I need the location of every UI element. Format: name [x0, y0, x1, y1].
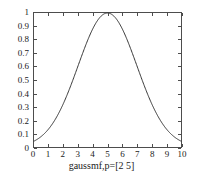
y-tick-label: 0.4: [0, 89, 29, 98]
y-tick-left: [34, 53, 37, 54]
y-tick-right: [178, 66, 181, 67]
y-tick-right: [178, 107, 181, 108]
x-tick-bottom: [33, 144, 34, 147]
y-tick-right: [178, 121, 181, 122]
y-tick-right: [178, 94, 181, 95]
x-tick-label: 10: [178, 150, 187, 159]
y-tick-label: 0.8: [0, 35, 29, 44]
y-tick-left: [34, 121, 37, 122]
plot-axes-box: [33, 12, 182, 148]
x-tick-label: 6: [120, 150, 125, 159]
y-tick-right: [178, 134, 181, 135]
x-tick-top: [93, 13, 94, 16]
x-tick-label: 5: [105, 150, 110, 159]
x-tick-label: 3: [75, 150, 80, 159]
y-tick-label: 0.6: [0, 62, 29, 71]
x-tick-bottom: [137, 144, 138, 147]
x-tick-top: [63, 13, 64, 16]
y-tick-left: [34, 80, 37, 81]
x-tick-bottom: [108, 144, 109, 147]
x-tick-label: 1: [46, 150, 51, 159]
y-tick-right: [178, 39, 181, 40]
x-tick-bottom: [63, 144, 64, 147]
x-tick-bottom: [48, 144, 49, 147]
x-tick-label: 2: [61, 150, 66, 159]
y-tick-left: [34, 107, 37, 108]
y-tick-left: [34, 12, 37, 13]
y-tick-right: [178, 53, 181, 54]
y-tick-label: 0.1: [0, 130, 29, 139]
x-tick-label: 7: [135, 150, 140, 159]
y-tick-right: [178, 26, 181, 27]
curve-plot: [34, 13, 181, 147]
y-tick-right: [178, 12, 181, 13]
x-tick-bottom: [182, 144, 183, 147]
y-tick-label: 1: [0, 8, 29, 17]
x-tick-top: [167, 13, 168, 16]
x-tick-top: [137, 13, 138, 16]
x-tick-top: [78, 13, 79, 16]
x-tick-top: [152, 13, 153, 16]
y-tick-left: [34, 94, 37, 95]
y-tick-label: 0.7: [0, 48, 29, 57]
x-tick-bottom: [78, 144, 79, 147]
y-tick-left: [34, 134, 37, 135]
x-tick-top: [108, 13, 109, 16]
y-tick-label: 0.5: [0, 76, 29, 85]
y-tick-label: 0.2: [0, 116, 29, 125]
x-tick-top: [33, 13, 34, 16]
x-tick-top: [122, 13, 123, 16]
gaussian-curve: [34, 13, 181, 141]
x-tick-label: 4: [90, 150, 95, 159]
y-tick-right: [178, 80, 181, 81]
x-axis-caption: gaussmf,p=[2 5]: [0, 160, 203, 171]
x-tick-bottom: [167, 144, 168, 147]
x-tick-bottom: [152, 144, 153, 147]
x-tick-label: 8: [150, 150, 155, 159]
figure-canvas: 01234567891000.10.20.30.40.50.60.70.80.9…: [0, 0, 203, 181]
y-tick-left: [34, 39, 37, 40]
y-tick-label: 0.9: [0, 21, 29, 30]
y-tick-left: [34, 26, 37, 27]
y-tick-label: 0.3: [0, 103, 29, 112]
x-tick-top: [48, 13, 49, 16]
y-tick-left: [34, 66, 37, 67]
y-tick-label: 0: [0, 144, 29, 153]
x-tick-top: [182, 13, 183, 16]
x-tick-label: 9: [165, 150, 170, 159]
x-tick-bottom: [122, 144, 123, 147]
x-tick-bottom: [93, 144, 94, 147]
x-tick-label: 0: [31, 150, 36, 159]
